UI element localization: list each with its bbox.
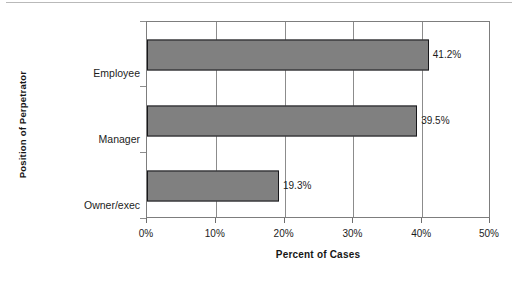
y-tick-label-owner-exec: Owner/exec xyxy=(40,199,140,211)
x-tick-label-40: 40% xyxy=(391,228,451,239)
x-axis-tick-20 xyxy=(284,218,285,223)
value-label-employee: 41.2% xyxy=(433,48,461,59)
x-tick-label-30: 30% xyxy=(322,228,382,239)
y-tick-label-manager: Manager xyxy=(40,133,140,145)
x-axis-tick-40 xyxy=(421,218,422,223)
x-tick-label-50: 50% xyxy=(459,228,518,239)
bar-employee xyxy=(147,39,429,70)
x-tick-label-10: 10% xyxy=(185,228,245,239)
page-top-rule xyxy=(6,2,512,3)
x-axis-tick-0 xyxy=(146,218,147,223)
x-tick-label-0: 0% xyxy=(116,228,176,239)
value-label-owner-exec: 19.3% xyxy=(283,180,311,191)
x-axis-tick-30 xyxy=(352,218,353,223)
bar-manager xyxy=(147,105,417,136)
value-label-manager: 39.5% xyxy=(421,114,449,125)
x-axis-tick-10 xyxy=(215,218,216,223)
x-axis-title: Percent of Cases xyxy=(146,249,490,260)
x-tick-label-20: 20% xyxy=(254,228,314,239)
y-axis-tick-labels: Employee Manager Owner/exec xyxy=(40,21,140,218)
y-tick-label-employee: Employee xyxy=(40,67,140,79)
y-axis-title: Position of Perpetrator xyxy=(17,40,28,210)
bar-chart-figure: Position of Perpetrator Employee Manager… xyxy=(0,0,518,282)
x-axis-tick-50 xyxy=(489,218,490,223)
bar-owner-exec xyxy=(147,171,279,202)
